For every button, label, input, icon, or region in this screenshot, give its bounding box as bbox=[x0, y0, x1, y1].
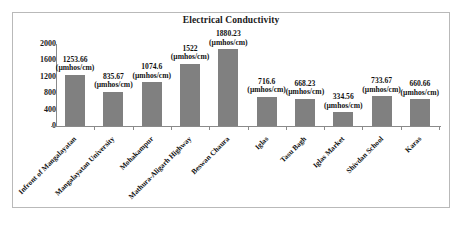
x-axis-tick-mark bbox=[439, 127, 440, 130]
x-axis-tick-mark bbox=[286, 127, 287, 130]
x-axis-tick-mark bbox=[401, 127, 402, 130]
x-axis-tick-mark bbox=[209, 127, 210, 130]
x-axis-tick-mark bbox=[133, 127, 134, 130]
bar bbox=[103, 92, 123, 126]
x-axis-tick-label: Infront of Mangalayatan bbox=[12, 134, 78, 208]
bar-value-label: 1074.6(µmhos/cm) bbox=[112, 63, 192, 80]
chart-figure: Electrical Conductivity 0400800120016002… bbox=[12, 12, 450, 208]
chart-title: Electrical Conductivity bbox=[13, 15, 449, 25]
bar-value-label: 1253.66(µmhos/cm) bbox=[35, 56, 115, 73]
bar bbox=[257, 97, 277, 126]
x-axis-tick-mark bbox=[324, 127, 325, 130]
bar-value-label: 1522(µmhos/cm) bbox=[150, 45, 230, 62]
x-axis-line bbox=[56, 126, 441, 127]
bar-value-label: 660.66(µmhos/cm) bbox=[380, 80, 450, 97]
bar bbox=[333, 112, 353, 126]
x-axis-tick-mark bbox=[171, 127, 172, 130]
x-axis-labels: Infront of MangalayatanMangalayatan Univ… bbox=[13, 131, 450, 208]
bar-value-label: 1880.23(µmhos/cm) bbox=[188, 30, 268, 47]
x-axis-tick-mark bbox=[94, 127, 95, 130]
bar-value-label: 334.56(µmhos/cm) bbox=[303, 93, 383, 110]
x-axis-tick-mark bbox=[362, 127, 363, 130]
x-axis-tick-mark bbox=[248, 127, 249, 130]
bar bbox=[410, 99, 430, 126]
